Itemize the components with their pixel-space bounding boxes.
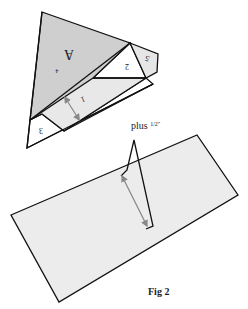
annotation-fraction: 1/2 — [150, 121, 158, 127]
label-4: 4 — [56, 68, 59, 74]
fold-diagram: A 4 1 2 3 5 plus 1/2" Fig 2 — [0, 0, 248, 309]
label-2: 2 — [125, 62, 129, 71]
figure-caption: Fig 2 — [148, 286, 169, 297]
annotation-plus-half-inch: plus 1/2" — [131, 120, 161, 131]
annotation-unit: " — [158, 121, 161, 127]
label-3: 3 — [39, 126, 43, 135]
label-A: A — [63, 47, 74, 62]
annotation-text: plus — [131, 120, 150, 131]
paper-rectangle — [11, 135, 238, 302]
